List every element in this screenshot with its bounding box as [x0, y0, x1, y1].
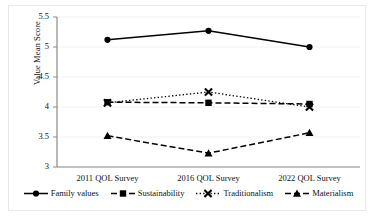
- legend-item-family-values[interactable]: Family values: [23, 188, 99, 199]
- chart-figure: Value Mean Score 33.544.555.5 2011 QOL S…: [0, 0, 376, 223]
- legend-item-label: Materialism: [312, 189, 353, 198]
- series-materialism: [104, 129, 314, 157]
- data-point-marker: [104, 132, 112, 139]
- legend-swatch-triangle-icon: [284, 188, 310, 199]
- data-point-marker: [306, 44, 312, 50]
- data-point-marker: [119, 190, 125, 196]
- series-sustainability: [104, 99, 312, 107]
- legend-item-label: Family values: [51, 189, 99, 198]
- legend-swatch-x-icon: [195, 188, 221, 199]
- data-point-marker: [205, 88, 212, 95]
- legend-item-traditionalism[interactable]: Traditionalism: [195, 188, 273, 199]
- legend-item-label: Sustainability: [138, 189, 185, 198]
- legend-item-sustainability[interactable]: Sustainability: [110, 188, 185, 199]
- legend-item-label: Traditionalism: [223, 189, 273, 198]
- legend-item-materialism[interactable]: Materialism: [284, 188, 353, 199]
- legend-swatch-square-icon: [110, 188, 136, 199]
- axis-lines: [53, 17, 360, 167]
- data-point-marker: [104, 37, 110, 43]
- data-point-marker: [205, 100, 211, 106]
- legend-swatch-circle-icon: [23, 188, 49, 199]
- data-point-marker: [306, 129, 314, 136]
- data-point-marker: [205, 28, 211, 34]
- chart-legend: Family valuesSustainabilityTraditionalis…: [12, 188, 364, 199]
- data-point-marker: [33, 190, 39, 196]
